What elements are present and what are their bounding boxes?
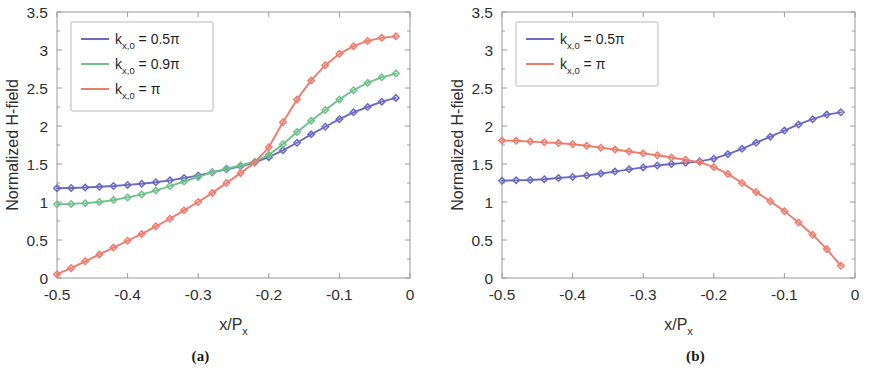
y-tick-label: 0	[39, 270, 48, 287]
series-line-k_x0_0.5pi	[502, 112, 841, 180]
x-tick-label: 0	[406, 286, 415, 303]
y-tick-label: 3	[484, 42, 493, 59]
x-tick-label: 0	[851, 286, 860, 303]
x-axis-title: x/Px	[664, 316, 693, 337]
plot-a: 00.511.522.533.5-0.5-0.4-0.3-0.2-0.10x/P…	[0, 0, 445, 371]
x-tick-label: -0.5	[489, 286, 516, 303]
y-tick-label: 2.5	[471, 80, 493, 97]
x-tick-label: -0.5	[44, 286, 71, 303]
panel-b: 00.511.522.533.5-0.5-0.4-0.3-0.2-0.10x/P…	[445, 0, 890, 371]
x-tick-label: -0.4	[559, 286, 586, 303]
y-tick-label: 3	[39, 42, 48, 59]
panel-a-caption: (a)	[0, 348, 423, 365]
y-tick-label: 2	[484, 118, 493, 135]
y-tick-label: 0.5	[26, 232, 48, 249]
y-tick-label: 2.5	[26, 80, 48, 97]
y-tick-label: 3.5	[471, 4, 493, 21]
series-line-k_x0_pi	[502, 140, 841, 265]
x-tick-label: -0.4	[114, 286, 141, 303]
figure-container: 00.511.522.533.5-0.5-0.4-0.3-0.2-0.10x/P…	[0, 0, 890, 371]
y-axis-title: Normalized H-field	[4, 79, 21, 211]
y-tick-label: 1.5	[471, 156, 493, 173]
x-tick-label: -0.3	[185, 286, 212, 303]
panel-b-caption: (b)	[473, 348, 890, 365]
y-tick-label: 1.5	[26, 156, 48, 173]
y-tick-label: 3.5	[26, 4, 48, 21]
x-tick-label: -0.1	[771, 286, 798, 303]
panel-a: 00.511.522.533.5-0.5-0.4-0.3-0.2-0.10x/P…	[0, 0, 445, 371]
plot-b: 00.511.522.533.5-0.5-0.4-0.3-0.2-0.10x/P…	[445, 0, 890, 371]
y-tick-label: 0.5	[471, 232, 493, 249]
y-axis-title: Normalized H-field	[449, 79, 466, 211]
y-tick-label: 2	[39, 118, 48, 135]
y-tick-label: 1	[484, 194, 493, 211]
x-axis-title: x/Px	[219, 316, 248, 337]
y-tick-label: 1	[39, 194, 48, 211]
x-tick-label: -0.2	[700, 286, 727, 303]
x-tick-label: -0.1	[326, 286, 353, 303]
x-tick-label: -0.3	[630, 286, 657, 303]
y-tick-label: 0	[484, 270, 493, 287]
x-tick-label: -0.2	[255, 286, 282, 303]
